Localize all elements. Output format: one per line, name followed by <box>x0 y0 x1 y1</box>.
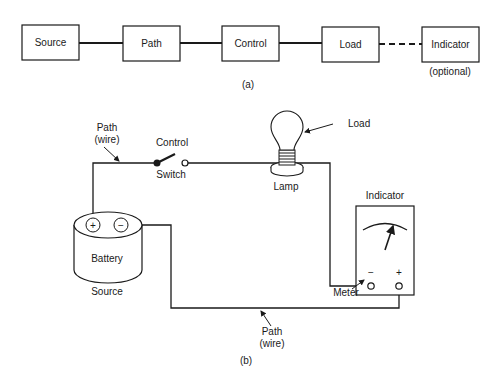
caption-b: (b) <box>240 355 252 366</box>
path-top-sublabel: (wire) <box>95 134 120 145</box>
meter-plus-terminal <box>396 283 402 289</box>
lamp-icon <box>271 111 303 176</box>
switch-lever <box>157 154 175 163</box>
load-arrow <box>305 124 333 132</box>
block-path-label: Path <box>141 38 162 49</box>
meter-minus-terminal <box>368 283 374 289</box>
switch-label: Switch <box>156 169 185 180</box>
battery-minus-terminal: − <box>118 220 124 231</box>
indicator-optional-note: (optional) <box>429 66 471 77</box>
block-load-label: Load <box>339 39 361 50</box>
block-control-label: Control <box>234 38 266 49</box>
control-label: Control <box>156 137 188 148</box>
meter-plus-sign: + <box>396 267 402 278</box>
path-bottom-sublabel: (wire) <box>260 338 285 349</box>
meter-body <box>356 206 414 295</box>
indicator-label: Indicator <box>366 190 405 201</box>
wire-battery-plus-to-switch <box>93 163 155 219</box>
switch-contact <box>182 160 188 166</box>
lamp-label: Lamp <box>273 181 298 192</box>
path-bottom-arrow <box>261 311 271 326</box>
caption-a: (a) <box>242 79 254 90</box>
block-source-label: Source <box>35 37 67 48</box>
load-label: Load <box>348 118 370 129</box>
path-bottom-label: Path <box>262 326 283 337</box>
block-diagram: Source Path Control Load Indicator (opti… <box>22 25 479 90</box>
meter-minus-sign: − <box>368 267 374 278</box>
circuit-diagram: Source Path Control Load Indicator (opti… <box>0 0 495 378</box>
battery-label: Battery <box>91 253 123 264</box>
path-top-arrow <box>104 147 119 161</box>
meter-label: Meter <box>333 287 359 298</box>
battery-plus-terminal: + <box>90 220 96 231</box>
path-top-label: Path <box>97 122 118 133</box>
block-indicator-label: Indicator <box>431 39 470 50</box>
pictorial-circuit: Path (wire) Control Switch Load Lamp <box>74 111 414 366</box>
source-label: Source <box>91 286 123 297</box>
battery-icon <box>74 212 142 283</box>
